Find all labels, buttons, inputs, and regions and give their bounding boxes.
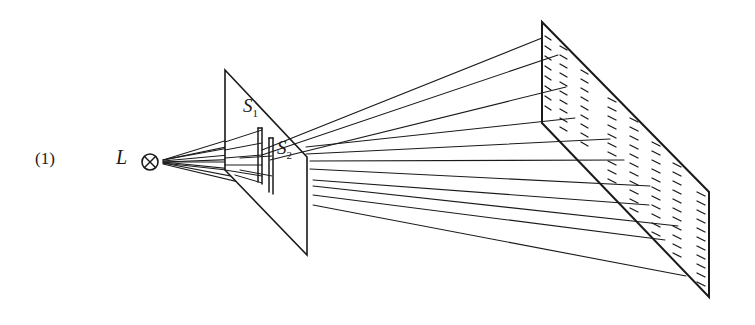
light-source-icon <box>142 154 158 170</box>
slit1-letter: S <box>243 95 253 116</box>
double-slit-diagram: (1) L S1 S2 <box>0 0 755 325</box>
diagram-drawing <box>0 0 755 325</box>
figure-number: (1) <box>35 149 55 169</box>
viewing-screen <box>542 22 709 297</box>
slit1-label: S1 <box>243 95 258 119</box>
interference-fringes <box>545 36 705 286</box>
slit-barrier <box>225 70 307 255</box>
slit1-subscript: 1 <box>253 107 259 119</box>
slit2-label: S2 <box>277 137 292 161</box>
source-label: L <box>116 146 127 169</box>
diffracted-rays <box>262 38 686 276</box>
slit2-letter: S <box>277 137 287 158</box>
slit2-subscript: 2 <box>287 149 293 161</box>
